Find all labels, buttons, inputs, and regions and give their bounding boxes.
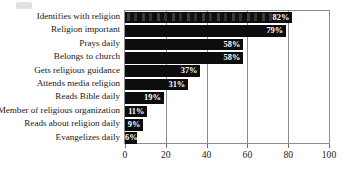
axis-tick bbox=[207, 144, 208, 148]
bar-value-label: 6% bbox=[125, 132, 137, 144]
category-label: Religion important bbox=[51, 23, 120, 36]
bar-value-label: 31% bbox=[125, 79, 188, 91]
plot-area: 82%79%58%58%37%31%19%11%9%6% bbox=[124, 10, 330, 144]
category-label: Gets religious guidance bbox=[34, 64, 120, 77]
bar-row: 31% bbox=[125, 78, 329, 91]
axis-tick bbox=[166, 144, 167, 148]
scan-artifact bbox=[16, 2, 32, 9]
bar-value-label: 19% bbox=[125, 92, 164, 104]
bar-row: 79% bbox=[125, 24, 329, 37]
category-label: Identifies with religion bbox=[37, 10, 120, 23]
bar-value-label: 79% bbox=[125, 25, 286, 37]
bar-value-label: 37% bbox=[125, 65, 200, 77]
bar-row: 9% bbox=[125, 118, 329, 131]
axis-tick bbox=[288, 144, 289, 148]
axis-tick bbox=[125, 144, 126, 148]
category-axis-labels: Identifies with religionReligion importa… bbox=[0, 10, 122, 144]
bar-row: 58% bbox=[125, 51, 329, 64]
bar-value-label: 9% bbox=[125, 119, 143, 131]
category-label: Belongs to church bbox=[54, 50, 120, 63]
bar-row: 6% bbox=[125, 132, 329, 145]
category-label: Evangelizes daily bbox=[56, 131, 120, 144]
category-label: Reads about religion daily bbox=[24, 117, 120, 130]
axis-tick bbox=[329, 144, 330, 148]
bar-value-label: 82% bbox=[125, 12, 292, 24]
bar-row: 82% bbox=[125, 11, 329, 24]
bar-chart: Identifies with religionReligion importa… bbox=[0, 0, 349, 178]
category-label: Member of religious organization bbox=[0, 104, 120, 117]
bar-value-label: 58% bbox=[125, 52, 243, 64]
bar-value-label: 11% bbox=[125, 106, 147, 118]
category-label: Prays daily bbox=[79, 37, 120, 50]
category-label: Attends media religion bbox=[37, 77, 120, 90]
axis-tick bbox=[247, 144, 248, 148]
bar-row: 58% bbox=[125, 38, 329, 51]
bar-row: 11% bbox=[125, 105, 329, 118]
bar-value-label: 58% bbox=[125, 39, 243, 51]
bar-row: 37% bbox=[125, 65, 329, 78]
axis-tick-label: 20 bbox=[161, 149, 171, 160]
bar-row: 19% bbox=[125, 91, 329, 104]
category-label: Reads Bible daily bbox=[55, 90, 120, 103]
axis-tick-label: 80 bbox=[283, 149, 293, 160]
axis-tick-label: 0 bbox=[123, 149, 128, 160]
axis-tick-label: 100 bbox=[322, 149, 336, 160]
x-axis-ticks bbox=[124, 144, 330, 149]
axis-tick-label: 40 bbox=[202, 149, 212, 160]
axis-tick-label: 60 bbox=[243, 149, 253, 160]
